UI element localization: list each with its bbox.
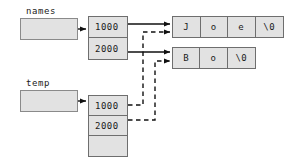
connector-layer [0, 0, 296, 163]
edge-temp0-to-joe [128, 32, 170, 105]
memory-diagram: names temp 1000 2000 1000 2000 J o e \0 … [0, 0, 296, 163]
edge-temp1-to-bo [128, 61, 170, 120]
